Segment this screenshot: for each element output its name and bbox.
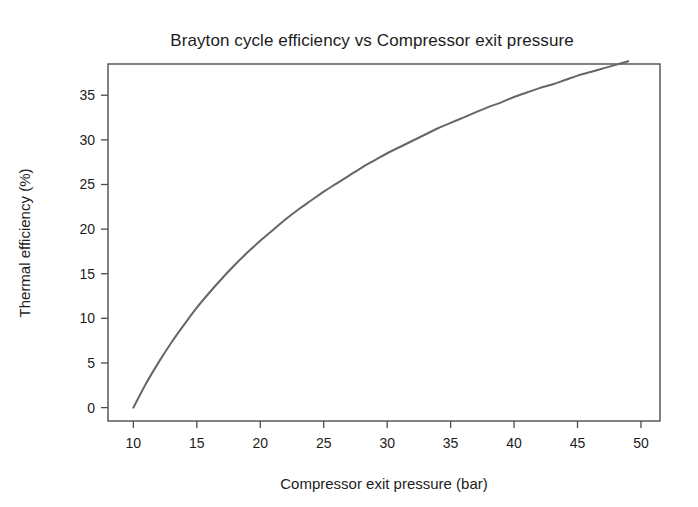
y-tick-label: 10 [79,310,95,326]
y-tick-label: 25 [79,176,95,192]
y-tick-label: 5 [87,355,95,371]
y-tick-label: 20 [79,221,95,237]
x-tick-label: 30 [379,435,395,451]
x-tick-label: 40 [506,435,522,451]
figure-background [0,0,698,507]
x-axis-title: Compressor exit pressure (bar) [280,475,488,492]
y-tick-label: 15 [79,266,95,282]
x-tick-label: 45 [570,435,586,451]
x-tick-label: 20 [252,435,268,451]
x-tick-label: 50 [633,435,649,451]
chart-canvas: Brayton cycle efficiency vs Compressor e… [0,0,698,507]
y-tick-label: 30 [79,132,95,148]
chart-figure: Brayton cycle efficiency vs Compressor e… [0,0,698,507]
x-tick-label: 15 [189,435,205,451]
y-tick-label: 0 [87,400,95,416]
y-tick-label: 35 [79,87,95,103]
x-tick-label: 25 [316,435,332,451]
y-axis-title: Thermal efficiency (%) [16,169,33,318]
x-tick-label: 10 [126,435,142,451]
chart-title: Brayton cycle efficiency vs Compressor e… [170,31,574,50]
x-tick-label: 35 [443,435,459,451]
